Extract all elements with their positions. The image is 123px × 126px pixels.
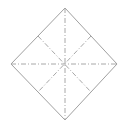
fold-diagram xyxy=(0,0,123,126)
